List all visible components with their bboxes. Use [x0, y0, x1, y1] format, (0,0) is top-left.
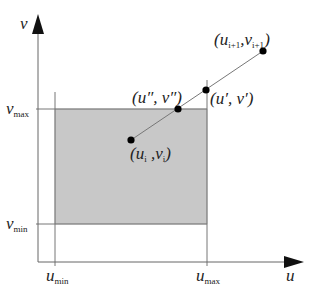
- v-min-label: vmin: [6, 214, 28, 234]
- v-axis-arrow-icon: [32, 14, 44, 34]
- u-max-label: umax: [196, 266, 220, 286]
- v-max-label: vmax: [6, 99, 30, 119]
- clipping-diagram: v u vmax vmin umin umax (ui ,vi) (u″, v″…: [0, 0, 310, 289]
- point-intersect-right: [202, 86, 209, 93]
- u-min-label: umin: [46, 266, 69, 286]
- point-start-label: (ui ,vi): [130, 144, 171, 164]
- point-intersect-right-label: (u′, v′): [210, 89, 254, 108]
- clip-region: [55, 109, 207, 224]
- point-end-label: (ui+1,vi+1): [214, 30, 270, 50]
- v-axis-label: v: [20, 14, 28, 33]
- point-intersect-top-label: (u″, v″): [132, 88, 182, 107]
- point-start: [127, 136, 134, 143]
- u-axis-label: u: [286, 266, 295, 285]
